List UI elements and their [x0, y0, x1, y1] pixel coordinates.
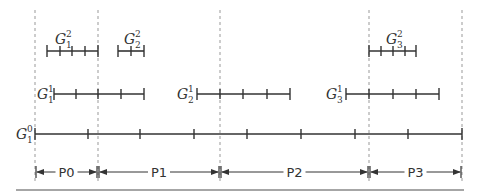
partition-p2: P2 [221, 165, 368, 180]
level-1: G11G12G13 [37, 84, 439, 105]
grid-label: G [177, 86, 188, 102]
grid-label: G [326, 86, 337, 102]
grid-label-superscript: 1 [188, 84, 194, 94]
grid-label-subscript: 2 [188, 95, 194, 105]
grid-label-superscript: 1 [48, 84, 54, 94]
partition-label: P3 [407, 165, 423, 180]
grid-G1-level1: G11 [37, 84, 144, 105]
grid-G2-level1: G12 [177, 84, 290, 105]
grid-label-superscript: 2 [135, 29, 141, 39]
grid-label-subscript: 1 [48, 95, 54, 105]
partition-p1: P1 [99, 165, 219, 180]
grid-G3-level2: G23 [369, 29, 416, 57]
grid-label-superscript: 1 [337, 84, 343, 94]
partition-arrows: P0P1P2P3 [36, 165, 461, 180]
grid-label-superscript: 0 [27, 124, 33, 134]
grid-G1-level2: G21 [47, 29, 98, 57]
grid-label: G [124, 31, 135, 47]
level-2: G21G22G23 [47, 29, 416, 57]
grid-label-subscript: 2 [135, 40, 141, 50]
grid-label-subscript: 1 [66, 40, 72, 50]
grid-levels: G21G22G23G11G12G13G01 [16, 29, 462, 145]
grid-G2-level2: G22 [118, 29, 144, 57]
partition-label: P2 [286, 165, 302, 180]
grid-label: G [37, 86, 48, 102]
level-0: G01 [16, 124, 462, 145]
grid-G3-level1: G13 [326, 84, 439, 105]
partition-p0: P0 [36, 165, 97, 180]
grid-label: G [386, 31, 397, 47]
grid-G1-level0: G01 [16, 124, 462, 145]
grid-label-subscript: 1 [27, 135, 33, 145]
partition-p3: P3 [370, 165, 461, 180]
grid-label-superscript: 2 [66, 29, 72, 39]
diagram-canvas: G21G22G23G11G12G13G01 P0P1P2P3 [0, 0, 479, 193]
grid-partition-diagram: G21G22G23G11G12G13G01 P0P1P2P3 [0, 0, 479, 193]
partition-label: P0 [58, 165, 74, 180]
partition-label: P1 [151, 165, 167, 180]
grid-label: G [16, 126, 27, 142]
grid-label-subscript: 3 [337, 95, 343, 105]
grid-label-superscript: 2 [397, 29, 403, 39]
grid-label: G [55, 31, 66, 47]
grid-label-subscript: 3 [397, 40, 403, 50]
